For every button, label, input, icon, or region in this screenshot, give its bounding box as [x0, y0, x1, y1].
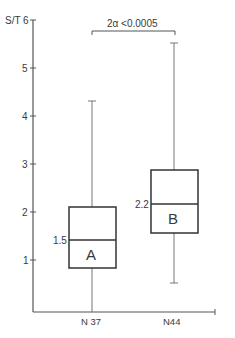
y-tick-label-5: 5 — [22, 63, 28, 74]
y-tick-label-4: 4 — [22, 111, 28, 122]
box-b-label: B — [168, 210, 178, 227]
y-axis-label: S/T — [5, 15, 21, 26]
box-a — [69, 101, 116, 312]
significance-label: 2α <0.0005 — [107, 18, 158, 29]
box-plot-chart: S/T 6 5 4 3 2 1 2α <0.0005 1.5 A 2.2 B N… — [0, 0, 235, 338]
box-b — [151, 43, 198, 283]
median-a-label: 1.5 — [53, 235, 67, 246]
significance-bracket — [92, 31, 175, 35]
x-label-b: N44 — [163, 316, 180, 327]
y-tick-label-3: 3 — [22, 159, 28, 170]
y-tick-label-2: 2 — [22, 207, 28, 218]
y-tick-label-6: 6 — [23, 15, 29, 26]
y-tick-label-1: 1 — [23, 255, 29, 266]
median-b-label: 2.2 — [135, 199, 149, 210]
x-label-a: N 37 — [81, 316, 101, 327]
box-a-label: A — [86, 246, 96, 263]
